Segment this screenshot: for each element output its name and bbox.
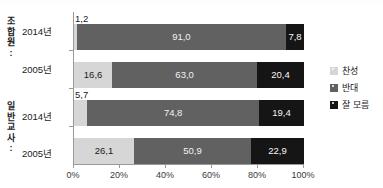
group-label-johapwon: 조 합 원 : xyxy=(2,16,20,58)
top-crop-edge xyxy=(0,0,383,3)
bar-segment[interactable]: 19,4 xyxy=(259,100,304,126)
x-axis-tick xyxy=(165,164,166,168)
bar-segment[interactable]: 26,1 xyxy=(74,138,134,164)
bar-segment-value: 16,6 xyxy=(84,69,103,80)
bar-segment-value: 22,9 xyxy=(268,145,287,156)
x-axis-tick-label: 40% xyxy=(156,170,174,180)
group-label-char: 원 xyxy=(2,37,20,48)
stacked-bar-chart: 조 합 원 : 일 반 교 사 : 2014년 2005년 2014년 2005… xyxy=(0,0,383,188)
category-label-0: 2014년 xyxy=(22,24,67,38)
group-label-char: : xyxy=(2,48,20,59)
legend-swatch-icon xyxy=(330,67,338,75)
bar-segment[interactable]: 74,8 xyxy=(87,100,259,126)
bar-segment-value: 50,9 xyxy=(183,145,202,156)
x-axis-tick-label: 80% xyxy=(248,170,266,180)
bar-segment-value: 74,8 xyxy=(164,107,183,118)
group-label-ilban-gyosa: 일 반 교 사 : xyxy=(2,101,20,154)
bar-segment[interactable]: 50,9 xyxy=(134,138,251,164)
bar-segment[interactable]: 63,0 xyxy=(112,62,257,88)
group-label-char: : xyxy=(2,143,20,154)
y-axis-tick xyxy=(69,88,73,89)
legend-item-jal-moreum[interactable]: 잘 모름 xyxy=(330,96,383,113)
plot-area: 1,21,291,07,816,663,020,45,75,774,819,42… xyxy=(73,12,303,164)
x-axis-tick xyxy=(119,164,120,168)
legend-label: 찬성 xyxy=(342,64,358,77)
bar-row: 5,774,819,4 xyxy=(74,100,304,126)
x-axis-tick-label: 100% xyxy=(291,170,314,180)
legend-label: 잘 모름 xyxy=(342,98,369,111)
legend-item-chanseong[interactable]: 찬성 xyxy=(330,62,383,79)
bar-segment-value: 91,0 xyxy=(172,31,191,42)
bar-row: 26,150,922,9 xyxy=(74,138,304,164)
x-axis-tick xyxy=(73,164,74,168)
legend-item-bandae[interactable]: 반대 xyxy=(330,79,383,96)
category-label-1: 2005년 xyxy=(22,62,67,76)
bar-segment-value-outside: 1,2 xyxy=(75,13,88,24)
bar-segment[interactable]: 5,7 xyxy=(74,100,87,126)
bar-segment[interactable]: 16,6 xyxy=(74,62,112,88)
x-axis-tick-label: 60% xyxy=(202,170,220,180)
group-label-char: 교 xyxy=(2,122,20,133)
legend-label: 반대 xyxy=(342,81,358,94)
legend-swatch-icon xyxy=(330,84,338,92)
y-axis-tick xyxy=(69,50,73,51)
bar-segment-value-outside: 5,7 xyxy=(75,89,88,100)
bar-segment-value: 19,4 xyxy=(272,107,291,118)
group-label-char: 사 xyxy=(2,133,20,144)
x-axis-tick xyxy=(303,164,304,168)
bar-segment-value: 7,8 xyxy=(288,31,301,42)
group-label-char: 반 xyxy=(2,112,20,123)
bar-segment[interactable]: 7,8 xyxy=(286,24,304,50)
bar-row: 1,291,07,8 xyxy=(74,24,304,50)
y-axis-tick xyxy=(69,126,73,127)
category-label-2: 2014년 xyxy=(22,109,67,123)
group-label-char: 조 xyxy=(2,16,20,27)
group-label-char: 일 xyxy=(2,101,20,112)
bar-segment[interactable]: 91,0 xyxy=(77,24,286,50)
x-axis-line xyxy=(73,164,303,165)
x-axis-tick xyxy=(211,164,212,168)
bar-segment[interactable]: 20,4 xyxy=(257,62,304,88)
bar-segment-value: 63,0 xyxy=(175,69,194,80)
x-axis-tick xyxy=(257,164,258,168)
group-label-char: 합 xyxy=(2,27,20,38)
bar-segment[interactable]: 22,9 xyxy=(251,138,304,164)
chart-legend: 찬성 반대 잘 모름 xyxy=(330,62,383,113)
bar-segment-value: 20,4 xyxy=(271,69,290,80)
legend-swatch-icon xyxy=(330,101,338,109)
bar-row: 16,663,020,4 xyxy=(74,62,304,88)
bar-segment-value: 26,1 xyxy=(95,145,114,156)
category-label-3: 2005년 xyxy=(22,146,67,160)
x-axis-tick-label: 0% xyxy=(66,170,79,180)
x-axis-tick-label: 20% xyxy=(110,170,128,180)
